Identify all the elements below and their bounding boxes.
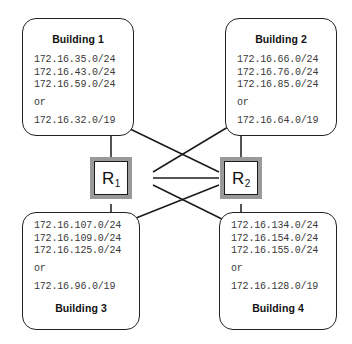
building-box-3: 172.16.107.0/24 172.16.109.0/24 172.16.1… <box>22 212 140 330</box>
subnet-entry: 172.16.85.0/24 <box>237 79 336 91</box>
subnet-connector: or <box>231 263 336 275</box>
subnet-connector: or <box>34 263 139 275</box>
subnet-entry: 172.16.154.0/24 <box>231 233 336 245</box>
subnet-connector: or <box>237 97 336 109</box>
network-diagram: Building 1 172.16.35.0/24 172.16.43.0/24… <box>0 0 352 344</box>
subnet-entry: 172.16.125.0/24 <box>34 245 139 257</box>
building-title-4: Building 4 <box>220 302 336 315</box>
link-r1-building4 <box>153 185 228 222</box>
subnet-entry: 172.16.109.0/24 <box>34 233 139 245</box>
subnet-summary: 172.16.32.0/19 <box>34 115 133 127</box>
building-box-1: Building 1 172.16.35.0/24 172.16.43.0/24… <box>22 18 134 136</box>
building-title-2: Building 2 <box>226 33 336 46</box>
subnet-entry: 172.16.59.0/24 <box>34 79 133 91</box>
subnet-entry: 172.16.134.0/24 <box>231 220 336 232</box>
subnet-list-4: 172.16.134.0/24 172.16.154.0/24 172.16.1… <box>220 220 336 293</box>
building-title-3: Building 3 <box>23 302 139 315</box>
subnet-entry: 172.16.155.0/24 <box>231 245 336 257</box>
subnet-entry: 172.16.43.0/24 <box>34 67 133 79</box>
link-r2-building1 <box>126 127 219 172</box>
subnet-summary: 172.16.96.0/19 <box>34 281 139 293</box>
subnet-entry: 172.16.35.0/24 <box>34 54 133 66</box>
router-node-r2[interactable]: R2 <box>220 157 262 199</box>
subnet-connector: or <box>34 97 133 109</box>
subnet-summary: 172.16.64.0/19 <box>237 115 336 127</box>
link-r2-building3 <box>126 185 219 222</box>
router-label-r2: R2 <box>232 170 250 187</box>
building-title-1: Building 1 <box>23 33 133 46</box>
router-label-r1: R1 <box>102 170 120 187</box>
subnet-list-2: 172.16.66.0/24 172.16.76.0/24 172.16.85.… <box>226 54 336 127</box>
subnet-list-3: 172.16.107.0/24 172.16.109.0/24 172.16.1… <box>23 220 139 293</box>
subnet-entry: 172.16.107.0/24 <box>34 220 139 232</box>
router-node-r1[interactable]: R1 <box>90 157 132 199</box>
subnet-summary: 172.16.128.0/19 <box>231 281 336 293</box>
link-r1-building2 <box>153 127 228 172</box>
subnet-entry: 172.16.76.0/24 <box>237 67 336 79</box>
building-box-2: Building 2 172.16.66.0/24 172.16.76.0/24… <box>225 18 337 136</box>
subnet-list-1: 172.16.35.0/24 172.16.43.0/24 172.16.59.… <box>23 54 133 127</box>
building-box-4: 172.16.134.0/24 172.16.154.0/24 172.16.1… <box>219 212 337 330</box>
subnet-entry: 172.16.66.0/24 <box>237 54 336 66</box>
